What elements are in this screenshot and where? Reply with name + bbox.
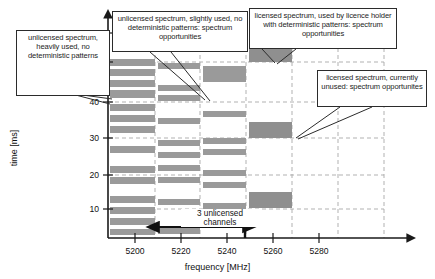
callout-licensed-unused: licensed spectrum, currently unused: spe… <box>317 70 427 107</box>
y-tick-label: 10 <box>89 204 99 214</box>
x-axis-label: frequency [MHz] <box>0 262 435 272</box>
channel-span-label: 3 unlicensed channels <box>181 209 259 227</box>
occupancy-column-4 <box>249 46 292 208</box>
x-tick-label: 5260 <box>263 246 282 256</box>
x-tick-label: 5280 <box>309 246 328 256</box>
y-axis-label: time [ms] <box>9 118 19 178</box>
occupancy-column-3 <box>203 34 246 209</box>
callout-unlicensed-heavy: unlicensed spectrum, heavily used, no de… <box>16 30 110 96</box>
x-tick-label: 5240 <box>217 246 236 256</box>
x-tick-label: 5200 <box>125 246 144 256</box>
x-tick-label: 5220 <box>171 246 190 256</box>
occupancy-column-1 <box>110 59 155 235</box>
callout-licensed-deterministic: licensed spectrum, used by licence holde… <box>249 8 397 49</box>
y-tick-label: 30 <box>89 133 99 143</box>
spectrum-occupancy-figure: 50 45 40 30 20 10 5200 5220 5240 5260 52… <box>0 0 435 279</box>
y-tick-label: 20 <box>89 170 99 180</box>
callout-unlicensed-slight: unlicensed spectrum, slightly used, no d… <box>112 11 248 52</box>
x-tick-labels: 5200 5220 5240 5260 5280 <box>125 246 328 256</box>
